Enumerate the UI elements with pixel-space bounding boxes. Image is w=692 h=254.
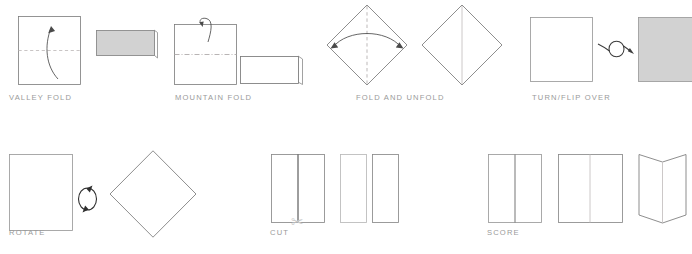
caption-valley-fold: VALLEY FOLD [9,94,72,102]
symbol-turn-flip-over [530,17,678,85]
symbol-rotate [9,150,199,254]
symbol-score [488,154,688,230]
caption-fold-and-unfold: FOLD AND UNFOLD [356,94,445,102]
turn-flip-arrow-loop [609,41,624,57]
cut-result-rectangle-left [341,155,367,223]
caption-turn-flip-over: TURN/FLIP OVER [532,94,611,102]
turn-flip-arrow-tail-left [598,44,610,51]
scissors-icon: ✂ [291,214,304,229]
turn-flip-arrowhead [628,48,634,54]
symbol-mountain-fold [174,16,306,90]
turn-flip-result-square [639,18,692,82]
symbol-fold-and-unfold [326,4,506,88]
rotate-source-square [10,155,73,231]
rotate-result-diamond [110,151,196,237]
caption-rotate: ROTATE [9,229,46,237]
cut-result-rectangle-right [373,155,399,223]
caption-mountain-fold: MOUNTAIN FOLD [175,94,252,102]
notation-key-sheet: VALLEY FOLD MOUNTAIN FOLD FOLD AND UNFOL… [0,0,692,254]
score-middle-rectangle [559,155,623,223]
symbol-valley-fold [18,16,160,86]
turn-flip-source-square [531,18,593,82]
caption-score: SCORE [487,229,520,237]
caption-cut: CUT [270,229,289,237]
valley-fold-result-rectangle [97,31,155,56]
mountain-fold-result-rectangle [241,57,299,84]
